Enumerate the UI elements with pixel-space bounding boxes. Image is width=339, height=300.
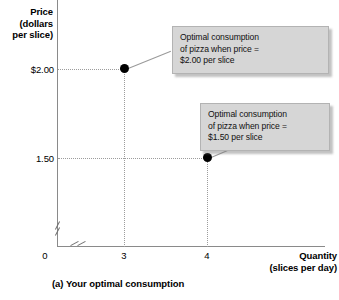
y-axis-title-line-3: per slice) (0, 29, 53, 41)
x-tick-label-4: 4 (195, 250, 219, 261)
callout-2-line-1: Optimal consumption (208, 109, 322, 121)
x-axis-title: Quantity (slices per day) (215, 250, 337, 273)
callout-2-line-3: $1.50 per slice (208, 132, 322, 144)
gridline-horizontal-2-00 (58, 69, 125, 70)
gridline-vertical-4 (207, 158, 208, 247)
callout-leader-line-1 (128, 51, 171, 69)
x-axis-title-line-2: (slices per day) (215, 262, 337, 274)
callout-1-line-1: Optimal consumption (180, 32, 321, 44)
y-axis-line (57, 0, 58, 247)
figure-caption: (a) Your optimal consumption (52, 278, 184, 289)
callout-box-1-50: Optimal consumption of pizza when price … (200, 103, 330, 151)
callout-1-line-3: $2.00 per slice (180, 55, 321, 67)
x-axis-line (57, 246, 325, 247)
callout-2-line-2: of pizza when price = (208, 121, 322, 133)
x-axis-title-line-1: Quantity (215, 250, 337, 262)
callout-box-2-00: Optimal consumption of pizza when price … (172, 26, 329, 74)
y-axis-title: Price (dollars per slice) (0, 6, 53, 41)
y-axis-title-line-2: (dollars (0, 18, 53, 30)
x-tick-label-3: 3 (112, 250, 136, 261)
y-tick-label-2-00: $2.00 (0, 64, 54, 75)
chart-figure: Price (dollars per slice) Quantity (slic… (0, 0, 339, 300)
callout-1-line-2: of pizza when price = (180, 44, 321, 56)
origin-label: 0 (33, 250, 57, 261)
y-tick-label-1-50: 1.50 (0, 153, 54, 164)
y-axis-title-line-1: Price (0, 6, 53, 18)
data-point-4-1-50 (203, 153, 212, 162)
gridline-horizontal-1-50 (58, 158, 208, 159)
data-point-3-2-00 (120, 64, 129, 73)
